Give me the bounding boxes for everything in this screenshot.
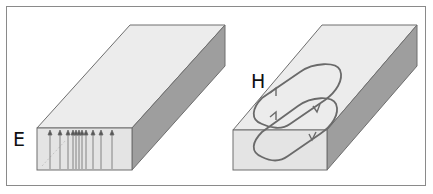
left-slab	[37, 25, 225, 170]
right-slab-front-face	[233, 130, 327, 170]
magnetic-field-label: H	[251, 72, 265, 91]
electric-field-label: E	[13, 130, 25, 149]
right-slab	[233, 25, 417, 170]
diagram-canvas	[0, 0, 433, 194]
